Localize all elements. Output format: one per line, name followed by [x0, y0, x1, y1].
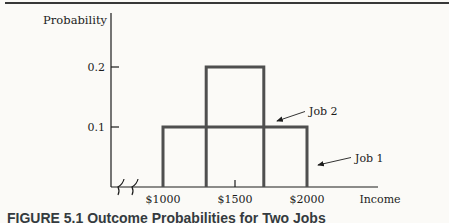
- job2-annotation-arrow: [277, 112, 305, 122]
- y-axis-label: Probability: [43, 13, 107, 27]
- y-tick-label-0.2: 0.2: [88, 61, 106, 74]
- x-tick-label-2000: $2000: [290, 193, 325, 206]
- x-tick-label-1500: $1500: [218, 193, 253, 206]
- x-axis-label: Income: [359, 193, 400, 206]
- probability-chart: Probability 0.2 0.1 $1000 $1500 $2000 In…: [0, 0, 449, 210]
- figure-caption: FIGURE 5.1 Outcome Probabilities for Two…: [7, 210, 326, 223]
- job1-annotation-arrow: [318, 158, 351, 166]
- job1-annotation-label: Job 1: [354, 152, 384, 165]
- y-tick-label-0.1: 0.1: [88, 121, 106, 134]
- job2-annotation-label: Job 2: [308, 105, 338, 118]
- job1-distribution: [163, 127, 307, 187]
- x-tick-label-1000: $1000: [146, 193, 181, 206]
- figure-5-1: Probability 0.2 0.1 $1000 $1500 $2000 In…: [0, 0, 449, 223]
